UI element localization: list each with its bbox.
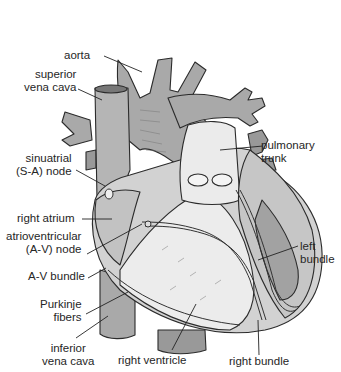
label-right-atrium: right atrium [17,212,75,225]
label-sinuatrial-node: sinuatrial (S-A) node [16,152,72,178]
label-inferior-vena-cava: inferior vena cava [42,342,94,368]
label-left-bundle: left bundle [300,240,335,266]
sa-node-shape [105,189,113,199]
av-node-shape [145,221,151,227]
label-right-ventricle: right ventricle [118,354,186,367]
label-superior-vena-cava: superior vena cava [24,68,76,94]
heart-diagram: aorta superior vena cava sinuatrial (S-A… [0,0,341,372]
label-av-node: atrioventricular (A-V) node [6,230,81,256]
pulmonary-trunk-shape [180,122,240,205]
label-aorta: aorta [64,49,90,62]
label-right-bundle: right bundle [229,355,289,368]
label-av-bundle: A-V bundle [28,270,85,283]
label-pulmonary-trunk: pulmonary trunk [261,139,315,165]
label-purkinje-fibers: Purkinje fibers [40,298,82,324]
